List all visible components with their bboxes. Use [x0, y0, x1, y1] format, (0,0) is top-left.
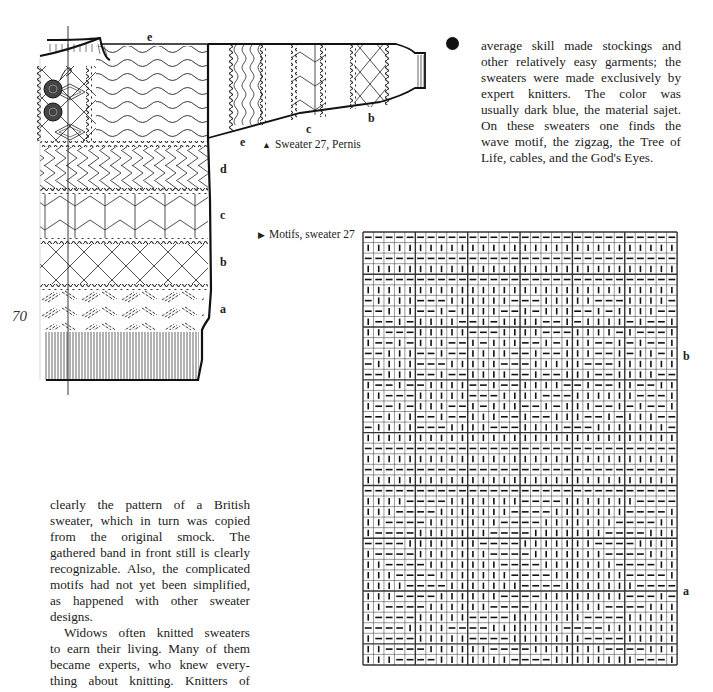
motif-chart-grid — [362, 231, 679, 666]
text-line: other relatively easy garments; the — [481, 54, 681, 70]
text-line: sweaters were made exclusively by — [481, 70, 681, 86]
text-line: recognizable. Also, the complicated — [50, 561, 250, 577]
text-line: usually dark blue, the material sajet. — [481, 102, 681, 118]
text-line: sweater, which in turn was copied — [50, 513, 250, 529]
label-sleeve-b: b — [368, 111, 375, 126]
text-line: On these sweaters one finds the — [481, 118, 681, 134]
text-line: expert knitters. The color was — [481, 86, 681, 102]
text-line: gathered band in front still is clearly — [50, 545, 250, 561]
triangle-right-icon: ▶ — [258, 230, 265, 240]
label-body-d: d — [220, 162, 227, 177]
chart-caption-text: Motifs, sweater 27 — [269, 228, 355, 240]
label-sleeve-e: e — [240, 135, 245, 150]
sweater-caption-text: Sweater 27, Pernis — [275, 138, 361, 150]
text-line: motifs had not yet been simplified, — [50, 577, 250, 593]
text-line: Widows often knitted sweaters — [50, 625, 250, 641]
text-line: became experts, who knew every- — [50, 657, 250, 673]
right-column-paragraph: average skill made stockings and other r… — [481, 38, 681, 166]
sweater-caption: ▲Sweater 27, Pernis — [262, 138, 361, 150]
text-line: from the original smock. The — [50, 529, 250, 545]
chart-caption: ▶Motifs, sweater 27 — [258, 228, 355, 240]
label-body-c: c — [220, 208, 225, 223]
label-top-e: e — [147, 30, 152, 45]
label-body-a: a — [220, 302, 226, 317]
text-line: designs. — [50, 609, 250, 625]
text-line: average skill made stockings and — [481, 38, 681, 54]
text-line: Life, cables, and the God's Eyes. — [481, 150, 681, 166]
text-line: as happened with other sweater — [50, 593, 250, 609]
label-body-b: b — [220, 255, 227, 270]
bullet-icon — [446, 37, 459, 50]
chart-label-a: a — [683, 584, 689, 599]
text-line: to earn their living. Many of them — [50, 641, 250, 657]
chart-label-b: b — [683, 349, 690, 364]
left-column-text: clearly the pattern of a British sweater… — [50, 497, 250, 689]
text-line: wave motif, the zigzag, the Tree of — [481, 134, 681, 150]
triangle-up-icon: ▲ — [262, 140, 271, 150]
text-line: clearly the pattern of a British — [50, 497, 250, 513]
text-line: thing about knitting. Knitters of — [50, 673, 250, 689]
label-sleeve-c: c — [306, 122, 311, 137]
page-number: 70 — [12, 308, 27, 325]
